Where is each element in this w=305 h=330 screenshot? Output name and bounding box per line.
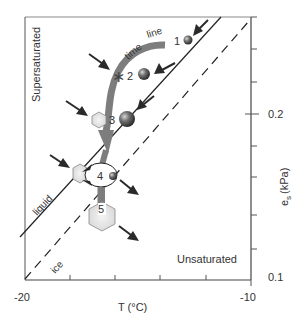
stage-3-ice-crystal-icon (92, 112, 106, 128)
stage-2: ∗ 2 (112, 67, 150, 86)
arrow-to-stage-3-crystal-icon (66, 101, 88, 116)
bergeron-process-diagram: -20 -10 T (°C) 0.2 0.1 es(kPa) Supersatu… (0, 0, 305, 330)
line-label-group: line (145, 24, 164, 39)
stage-5-number: 5 (98, 203, 104, 215)
ice-label: ice (48, 258, 65, 275)
liquid-label: liquid (30, 193, 54, 218)
y-axis-title-sub: s (284, 196, 293, 200)
ice-label-group: ice (48, 258, 65, 275)
y-tick-label-0-1: 0.1 (268, 271, 283, 283)
stage-1-number: 1 (174, 35, 180, 47)
y-axis-title: es(kPa) (278, 168, 293, 206)
stage-3-droplet-icon (119, 111, 135, 127)
stage-2-droplet-icon (138, 68, 150, 80)
supersaturated-label-group: Supersaturated (30, 27, 42, 102)
arrow-to-stage-3-droplet-icon (137, 96, 154, 110)
stage-4-droplet-icon (109, 172, 117, 180)
stage-3: 3 (92, 111, 135, 128)
line-label: line (145, 24, 164, 39)
arrow-from-stage-5-icon (119, 226, 139, 241)
stage-1: 1 (174, 35, 193, 47)
stage-3-number: 3 (109, 114, 115, 126)
stage-1-droplet-icon (184, 36, 193, 45)
svg-text:es(kPa): es(kPa) (278, 168, 293, 206)
x-tick-label-max: -10 (240, 291, 256, 303)
unsaturated-label: Unsaturated (177, 253, 237, 265)
stage-4-number: 4 (97, 170, 103, 182)
arrow-to-stage-4-crystal-icon (50, 155, 70, 168)
x-tick-label-min: -20 (14, 291, 30, 303)
arrow-from-stage-4-icon (120, 180, 139, 195)
y-tick-label-0-2: 0.2 (268, 108, 283, 120)
x-axis-title: T (°C) (118, 301, 147, 313)
arrow-to-stage-2-icon (154, 63, 175, 74)
ice-nucleus-asterisk-icon: ∗ (112, 67, 125, 86)
y-axis-ticks (245, 17, 259, 249)
stage-5: 5 (89, 202, 115, 231)
arrow-to-asterisk-icon (89, 54, 110, 70)
supersaturated-label: Supersaturated (30, 27, 42, 102)
stage-2-number: 2 (127, 70, 133, 82)
liquid-label-group: liquid (30, 193, 54, 218)
y-axis-title-unit: (kPa) (278, 168, 290, 194)
